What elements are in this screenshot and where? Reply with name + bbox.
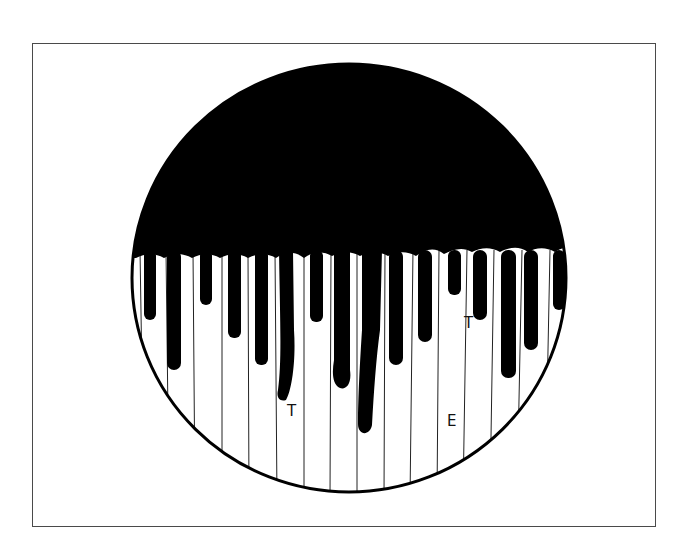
label-t-left: T — [287, 404, 296, 419]
label-e: E — [447, 414, 456, 429]
circle-diagram — [0, 0, 685, 556]
label-t-right: T — [464, 316, 473, 331]
dark-mass — [120, 60, 580, 258]
